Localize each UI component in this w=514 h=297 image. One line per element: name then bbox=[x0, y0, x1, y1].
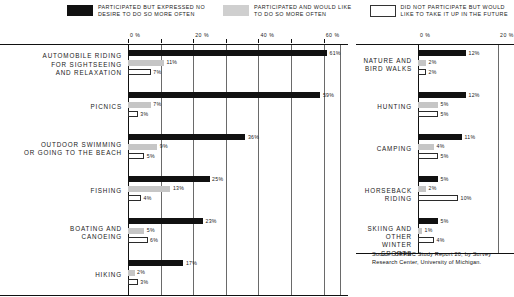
bar-no-desire-more bbox=[418, 50, 466, 56]
bar-value-label: 5% bbox=[441, 176, 449, 182]
bar-value-label: 5% bbox=[147, 227, 155, 233]
bar-value-label: 7% bbox=[153, 101, 161, 107]
bar-value-label: 3% bbox=[140, 279, 148, 285]
bar-value-label: 1% bbox=[425, 227, 433, 233]
bar-value-label: 2% bbox=[429, 185, 437, 191]
left-chart-plot-area: AUTOMOBILE RIDING FOR SIGHTSEEING AND RE… bbox=[0, 44, 348, 296]
bar-value-label: 12% bbox=[469, 92, 480, 98]
right-chart-x-axis: 0 %20 % bbox=[356, 30, 514, 44]
gridline bbox=[258, 45, 259, 295]
legend-label-take-up-future: DID NOT PARTICIPATE BUT WOULD LIKE TO TA… bbox=[401, 4, 508, 18]
bar-value-label: 61% bbox=[329, 50, 340, 56]
bar-no-desire-more bbox=[418, 176, 438, 182]
source-note: Source: ORRRC Study Report 20, by Survey… bbox=[372, 250, 512, 266]
gridline bbox=[193, 45, 194, 295]
category-label: HIKING bbox=[2, 271, 122, 279]
legend-swatch-white-icon bbox=[370, 5, 396, 17]
bar-would-like-more bbox=[128, 270, 135, 276]
bar-would-like-more bbox=[418, 228, 422, 234]
gridline bbox=[161, 45, 162, 295]
bar-take-up-future bbox=[418, 237, 434, 243]
bar-no-desire-more bbox=[128, 176, 210, 182]
bar-no-desire-more bbox=[128, 50, 327, 56]
bar-no-desire-more bbox=[418, 218, 438, 224]
bar-no-desire-more bbox=[128, 134, 245, 140]
bar-take-up-future bbox=[128, 195, 141, 201]
legend-label-line2: LIKE TO TAKE IT UP IN THE FUTURE bbox=[401, 11, 508, 18]
x-axis-tick-label: 20 % bbox=[500, 32, 514, 38]
category-label: FISHING bbox=[2, 187, 122, 195]
x-axis-tick-label: 0 % bbox=[130, 32, 140, 38]
legend-swatch-gray-icon bbox=[223, 5, 249, 16]
legend-label-no-desire: PARTICIPATED BUT EXPRESSED NO DESIRE TO … bbox=[98, 4, 205, 18]
category-label: HORSEBACK RIDING bbox=[356, 187, 412, 204]
bar-no-desire-more bbox=[128, 92, 320, 98]
legend-item-take-up-future: DID NOT PARTICIPATE BUT WOULD LIKE TO TA… bbox=[370, 4, 508, 18]
legend-label-line1: DID NOT PARTICIPATE BUT WOULD bbox=[401, 4, 508, 11]
legend-item-no-desire: PARTICIPATED BUT EXPRESSED NO DESIRE TO … bbox=[67, 4, 205, 18]
bar-value-label: 12% bbox=[469, 50, 480, 56]
bar-value-label: 5% bbox=[441, 218, 449, 224]
bar-value-label: 11% bbox=[465, 134, 476, 140]
x-axis-tick-label: 60 % bbox=[326, 32, 340, 38]
bar-take-up-future bbox=[128, 279, 138, 285]
legend-label-line2: TO DO SO MORE OFTEN bbox=[254, 11, 351, 18]
bar-value-label: 10% bbox=[461, 195, 472, 201]
legend-label-line1: PARTICIPATED AND WOULD LIKE bbox=[254, 4, 351, 11]
bar-take-up-future bbox=[418, 195, 458, 201]
bar-take-up-future bbox=[418, 153, 438, 159]
legend-label-line1: PARTICIPATED BUT EXPRESSED NO bbox=[98, 4, 205, 11]
bar-value-label: 2% bbox=[137, 269, 145, 275]
left-chart-x-axis: 0 %20 %40 %60 % bbox=[0, 30, 348, 44]
bar-would-like-more bbox=[418, 102, 438, 108]
bar-value-label: 59% bbox=[323, 92, 334, 98]
bar-take-up-future bbox=[418, 69, 426, 75]
category-label: NATURE AND BIRD WALKS bbox=[356, 57, 412, 74]
category-label: BOATING AND CANOEING bbox=[2, 225, 122, 242]
category-label: HUNTING bbox=[356, 103, 412, 111]
x-axis-tickmark bbox=[226, 39, 227, 43]
bar-would-like-more bbox=[128, 144, 157, 150]
bar-value-label: 3% bbox=[140, 111, 148, 117]
x-axis-tick-label: 0 % bbox=[420, 32, 430, 38]
bar-value-label: 5% bbox=[441, 153, 449, 159]
chart-legend: PARTICIPATED BUT EXPRESSED NO DESIRE TO … bbox=[0, 4, 514, 30]
bar-would-like-more bbox=[418, 186, 426, 192]
bar-no-desire-more bbox=[418, 92, 466, 98]
legend-label-line2: DESIRE TO DO SO MORE OFTEN bbox=[98, 11, 205, 18]
x-axis-tickmark bbox=[128, 39, 129, 43]
x-axis-tickmark bbox=[193, 39, 194, 43]
bar-value-label: 25% bbox=[212, 176, 223, 182]
bar-take-up-future bbox=[128, 237, 148, 243]
gridline bbox=[226, 45, 227, 295]
bar-value-label: 7% bbox=[153, 69, 161, 75]
gridline bbox=[324, 45, 325, 295]
bar-value-label: 11% bbox=[166, 59, 177, 65]
x-axis-tickmark bbox=[291, 39, 292, 43]
bar-value-label: 2% bbox=[429, 69, 437, 75]
bar-take-up-future bbox=[418, 111, 438, 117]
category-label: CAMPING bbox=[356, 145, 412, 153]
bar-value-label: 5% bbox=[441, 111, 449, 117]
bar-no-desire-more bbox=[128, 260, 183, 266]
category-label: AUTOMOBILE RIDING FOR SIGHTSEEING AND RE… bbox=[2, 52, 122, 77]
left-chart-panel: 0 %20 %40 %60 % AUTOMOBILE RIDING FOR SI… bbox=[0, 30, 348, 290]
bar-value-label: 36% bbox=[248, 134, 259, 140]
bar-take-up-future bbox=[128, 69, 151, 75]
bar-value-label: 5% bbox=[147, 153, 155, 159]
bar-value-label: 6% bbox=[150, 237, 158, 243]
bar-take-up-future bbox=[128, 153, 144, 159]
x-axis-tickmark bbox=[161, 39, 162, 43]
bar-value-label: 17% bbox=[186, 260, 197, 266]
bar-value-label: 4% bbox=[437, 143, 445, 149]
bar-would-like-more bbox=[128, 102, 151, 108]
bar-would-like-more bbox=[128, 60, 164, 66]
legend-label-would-like-more: PARTICIPATED AND WOULD LIKE TO DO SO MOR… bbox=[254, 4, 351, 18]
category-label: OUTDOOR SWIMMING OR GOING TO THE BEACH bbox=[2, 141, 122, 158]
bar-value-label: 5% bbox=[441, 101, 449, 107]
bar-value-label: 13% bbox=[173, 185, 184, 191]
category-label: PICNICS bbox=[2, 103, 122, 111]
bar-would-like-more bbox=[128, 186, 170, 192]
bar-would-like-more bbox=[418, 144, 434, 150]
legend-item-would-like-more: PARTICIPATED AND WOULD LIKE TO DO SO MOR… bbox=[223, 4, 351, 18]
